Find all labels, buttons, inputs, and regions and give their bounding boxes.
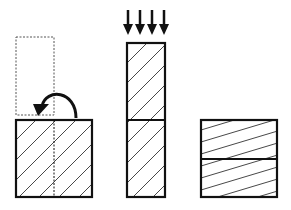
diagram-canvas [0,0,291,210]
hatch-lines [201,118,281,205]
hatch-lines [127,43,167,210]
step-1-fold [16,37,156,210]
step-2-press [123,10,169,210]
fold-arrowhead-icon [33,104,49,116]
down-arrow-icon [135,10,145,35]
press-arrows [123,10,169,35]
down-arrow-icon [123,10,133,35]
down-arrow-icon [147,10,157,35]
curved-fold-arrow-icon [42,94,76,118]
dashed-ghost-rect [16,37,54,115]
step-3-result [201,118,281,205]
down-arrow-icon [159,10,169,35]
